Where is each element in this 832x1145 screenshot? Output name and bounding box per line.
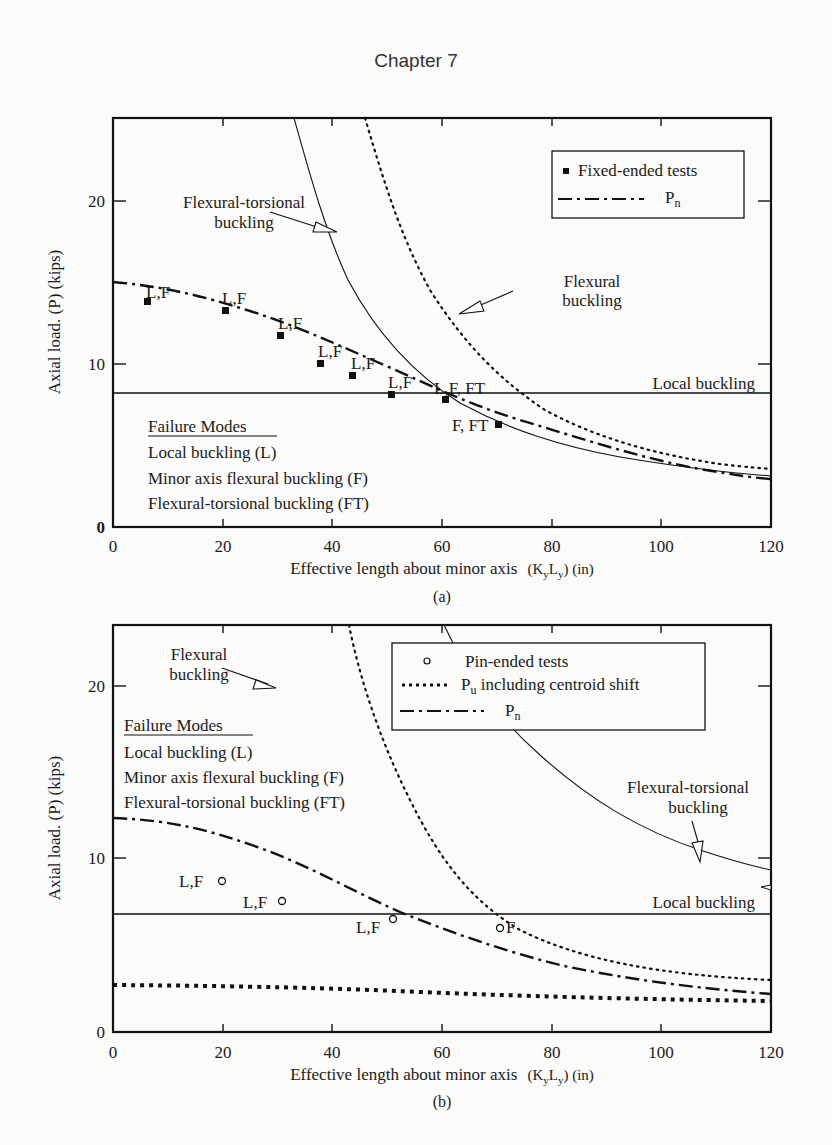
legend-item-pu: Pu including centroid shift <box>461 675 640 697</box>
annotation-flexural-2: buckling <box>169 665 229 684</box>
annotation-flexural-torsional: Flexural-torsional <box>627 778 749 797</box>
chart-b-legend: Pin-ended tests Pu including centroid sh… <box>392 643 705 730</box>
arrow-line <box>692 821 698 842</box>
figure-canvas: 0 20 40 60 80 100 120 0 10 20 Axial load… <box>0 0 832 1145</box>
chart-a-ylabel: Axial load. (P) (kips) <box>45 250 64 394</box>
ytick-label: 10 <box>88 849 105 868</box>
annotation-flexural-torsional-2: buckling <box>214 213 274 232</box>
arrow-head-icon <box>692 841 703 862</box>
marker-circle <box>279 898 286 905</box>
marker-circle <box>497 925 504 932</box>
point-label: L,F <box>146 283 170 302</box>
point-label: L,F <box>388 373 412 392</box>
chart-b-xtick-labels: 0 20 40 60 80 100 120 <box>109 1043 784 1062</box>
failure-mode-flexural: Minor axis flexural buckling (F) <box>124 768 344 787</box>
xtick-label: 0 <box>109 537 118 556</box>
marker-circle <box>390 916 397 923</box>
legend-item-fixed-ended: Fixed-ended tests <box>578 161 697 180</box>
chart-a-ytick-labels: 0 10 20 <box>88 192 105 537</box>
xtick-label: 120 <box>758 537 784 556</box>
arrow-head-icon <box>459 301 484 314</box>
failure-modes-title: Failure Modes <box>124 716 223 735</box>
marker-square <box>277 332 284 339</box>
failure-mode-flexural: Minor axis flexural buckling (F) <box>148 469 368 488</box>
chart-b-ytick-labels: 0 10 20 <box>88 677 105 1042</box>
annotation-flexural: Flexural <box>171 645 228 664</box>
marker-square <box>349 372 356 379</box>
annotation-local-buckling: Local buckling <box>653 893 756 912</box>
chart-b-point-labels: L,F L,F L,F F <box>179 872 515 937</box>
annotation-local-buckling: Local buckling <box>653 374 756 393</box>
chart-a-failure-modes: Failure Modes Local buckling (L) Minor a… <box>148 417 369 513</box>
xtick-label: 20 <box>215 537 232 556</box>
failure-mode-flexural-torsional: Flexural-torsional buckling (FT) <box>148 494 369 513</box>
chart-a-caption: (a) <box>433 588 451 606</box>
arrow-head-icon <box>313 222 337 232</box>
arrow-head-icon <box>761 885 771 890</box>
xtick-label: 80 <box>544 537 561 556</box>
point-label: F, FT <box>452 416 489 435</box>
chart-a-point-labels: L,F L,F L,F L,F L,F L,F L,F, FT F, FT <box>146 283 489 435</box>
chart-a-legend: Fixed-ended tests Pn <box>552 151 744 218</box>
point-label: F <box>506 918 515 937</box>
failure-mode-local: Local buckling (L) <box>124 743 252 762</box>
point-label: L,F <box>243 893 267 912</box>
point-label: L,F <box>318 342 342 361</box>
chart-b-failure-modes: Failure Modes Local buckling (L) Minor a… <box>124 716 345 812</box>
failure-modes-title: Failure Modes <box>148 417 247 436</box>
annotation-flexural-torsional: Flexural-torsional <box>183 193 305 212</box>
failure-mode-local: Local buckling (L) <box>148 443 276 462</box>
marker-square <box>388 391 395 398</box>
annotation-flexural: Flexural <box>564 272 621 291</box>
ytick-label: 20 <box>88 192 105 211</box>
annotation-flexural-torsional-2: buckling <box>668 798 728 817</box>
chart-a: 0 20 40 60 80 100 120 0 10 20 Axial load… <box>45 118 784 606</box>
point-label: L,F <box>278 314 302 333</box>
point-label: L,F <box>179 872 203 891</box>
xtick-label: 60 <box>434 537 451 556</box>
xtick-label: 100 <box>648 1043 674 1062</box>
xtick-label: 40 <box>324 1043 341 1062</box>
arrow-line <box>270 212 320 228</box>
xtick-label: 120 <box>758 1043 784 1062</box>
marker-circle <box>219 878 226 885</box>
annotation-flexural-2: buckling <box>562 291 622 310</box>
legend-circle-icon <box>424 658 430 664</box>
chart-a-annotations: Flexural-torsional buckling Flexural buc… <box>183 193 755 393</box>
chart-b-pu-curve <box>113 985 771 1001</box>
point-label: L,F <box>351 354 375 373</box>
marker-square <box>495 421 502 428</box>
ytick-label: 0 <box>97 518 106 537</box>
ytick-label: 20 <box>88 677 105 696</box>
point-label: L,F <box>356 918 380 937</box>
point-label: L,F, FT <box>434 379 486 398</box>
legend-square-icon <box>563 168 569 174</box>
xtick-label: 20 <box>215 1043 232 1062</box>
failure-mode-flexural-torsional: Flexural-torsional buckling (FT) <box>124 793 345 812</box>
point-label: L,F <box>222 289 246 308</box>
xtick-label: 100 <box>648 537 674 556</box>
ytick-label: 10 <box>88 355 105 374</box>
xtick-label: 0 <box>109 1043 118 1062</box>
xtick-label: 60 <box>434 1043 451 1062</box>
chart-b-ylabel: Axial load. (P) (kips) <box>45 756 64 900</box>
chart-a-xlabel: Effective length about minor axis(KyLy) … <box>290 559 594 580</box>
arrow-head-icon <box>253 680 276 689</box>
xtick-label: 40 <box>324 537 341 556</box>
chart-b-caption: (b) <box>433 1093 452 1111</box>
ytick-label: 0 <box>97 1023 106 1042</box>
chart-a-xtick-labels: 0 20 40 60 80 100 120 <box>109 537 784 556</box>
chart-b: 0 20 40 60 80 100 120 0 10 20 Axial load… <box>45 625 784 1111</box>
marker-square <box>222 307 229 314</box>
chart-b-xlabel: Effective length about minor axis(KyLy) … <box>290 1065 594 1086</box>
marker-square <box>317 360 324 367</box>
legend-item-pin-ended: Pin-ended tests <box>465 652 568 671</box>
xtick-label: 80 <box>544 1043 561 1062</box>
